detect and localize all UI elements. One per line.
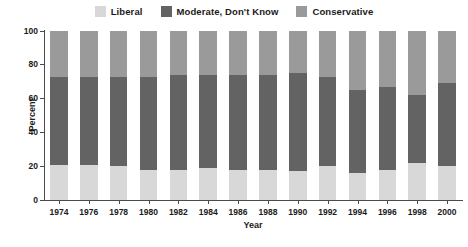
bar-segment <box>379 31 397 87</box>
x-tick-mark <box>447 200 448 204</box>
y-tick-mark <box>40 64 44 65</box>
bar-series-container <box>44 31 462 200</box>
x-tick-label: 1996 <box>378 207 397 217</box>
legend-label: Liberal <box>111 6 143 17</box>
y-tick-label: 40 <box>29 127 38 137</box>
bar-segment <box>438 166 456 200</box>
x-tick-mark <box>59 200 60 204</box>
x-tick-label: 1986 <box>229 207 248 217</box>
x-tick-mark <box>178 200 179 204</box>
bar-segment <box>259 170 277 200</box>
bar-group <box>170 31 188 200</box>
x-tick-label: 2000 <box>438 207 457 217</box>
bar-segment <box>408 31 426 95</box>
legend-swatch-moderate <box>161 6 172 17</box>
legend-swatch-liberal <box>95 6 106 17</box>
bar-segment <box>50 31 68 77</box>
bar-segment <box>199 31 217 75</box>
x-tick-label: 1982 <box>169 207 188 217</box>
bar-segment <box>140 31 158 77</box>
bar-segment <box>170 75 188 170</box>
bar-group <box>438 31 456 200</box>
bar-segment <box>199 168 217 200</box>
bar-segment <box>319 77 337 167</box>
bar-segment <box>140 77 158 170</box>
x-tick-mark <box>417 200 418 204</box>
bar-group <box>50 31 68 200</box>
y-tick-mark <box>40 98 44 99</box>
legend-label: Conservative <box>312 6 373 17</box>
bar-segment <box>319 31 337 77</box>
y-tick-label: 80 <box>29 59 38 69</box>
bar-group <box>259 31 277 200</box>
bar-group <box>349 31 367 200</box>
bar-segment <box>349 173 367 200</box>
legend-label: Moderate, Don't Know <box>177 6 279 17</box>
bar-group <box>110 31 128 200</box>
y-tick-mark <box>40 166 44 167</box>
bar-segment <box>110 31 128 77</box>
bar-group <box>319 31 337 200</box>
x-tick-mark <box>89 200 90 204</box>
bar-segment <box>80 31 98 77</box>
bar-segment <box>438 31 456 83</box>
bar-group <box>229 31 247 200</box>
bar-segment <box>319 166 337 200</box>
x-tick-label: 1984 <box>199 207 218 217</box>
bar-segment <box>259 75 277 170</box>
bar-group <box>80 31 98 200</box>
legend-entry: Moderate, Don't Know <box>161 6 279 17</box>
y-tick-label: 60 <box>29 93 38 103</box>
bar-segment <box>229 170 247 200</box>
x-tick-mark <box>358 200 359 204</box>
bar-segment <box>50 165 68 200</box>
bar-segment <box>408 163 426 200</box>
bar-segment <box>80 77 98 165</box>
stacked-bar-chart: LiberalModerate, Don't KnowConservative … <box>0 0 468 247</box>
bar-segment <box>140 170 158 200</box>
legend-swatch-conservative <box>296 6 307 17</box>
y-tick-label: 100 <box>24 26 38 36</box>
x-tick-mark <box>208 200 209 204</box>
bar-segment <box>259 31 277 75</box>
bar-segment <box>110 77 128 167</box>
y-tick-label: 0 <box>33 195 38 205</box>
x-tick-label: 1978 <box>109 207 128 217</box>
bar-segment <box>80 165 98 200</box>
bar-group <box>379 31 397 200</box>
bar-group <box>140 31 158 200</box>
bar-segment <box>408 95 426 163</box>
x-tick-label: 1998 <box>408 207 427 217</box>
bar-group <box>408 31 426 200</box>
legend-entry: Liberal <box>95 6 143 17</box>
x-tick-mark <box>328 200 329 204</box>
bar-segment <box>289 171 307 200</box>
legend-entry: Conservative <box>296 6 373 17</box>
x-tick-label: 1988 <box>258 207 277 217</box>
x-tick-mark <box>387 200 388 204</box>
x-tick-label: 1976 <box>79 207 98 217</box>
bar-segment <box>349 90 367 173</box>
y-tick-mark <box>40 132 44 133</box>
bar-segment <box>199 75 217 168</box>
bar-segment <box>170 170 188 200</box>
bar-segment <box>170 31 188 75</box>
x-axis-title: Year <box>44 220 462 230</box>
chart-legend: LiberalModerate, Don't KnowConservative <box>0 0 468 22</box>
bar-segment <box>110 166 128 200</box>
bar-segment <box>50 77 68 165</box>
x-tick-label: 1980 <box>139 207 158 217</box>
bar-segment <box>229 31 247 75</box>
bar-group <box>199 31 217 200</box>
bar-segment <box>438 83 456 166</box>
x-tick-label: 1990 <box>288 207 307 217</box>
y-tick-mark <box>40 31 44 32</box>
y-tick-label: 20 <box>29 161 38 171</box>
x-tick-mark <box>119 200 120 204</box>
x-tick-label: 1994 <box>348 207 367 217</box>
x-tick-container: 1974197619781980198219841986198819901992… <box>44 200 462 222</box>
bar-segment <box>349 31 367 90</box>
axis-area: 020406080100 <box>44 31 462 200</box>
x-tick-label: 1974 <box>49 207 68 217</box>
x-tick-mark <box>238 200 239 204</box>
